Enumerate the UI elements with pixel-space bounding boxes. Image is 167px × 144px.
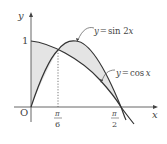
diagram-canvas: y x O 1 π 6 π 2 y=sin 2x y=cosx <box>0 0 167 144</box>
x-axis-label: x <box>152 109 158 120</box>
x-tick-pi-2-num: π <box>111 110 117 118</box>
shaded-region-left <box>31 41 58 107</box>
y-axis-label: y <box>17 10 24 21</box>
x-tick-pi-6-den: 6 <box>55 120 60 129</box>
x-tick-pi-6-num: π <box>54 110 60 118</box>
label-sin-2x: y=sin 2x <box>93 26 134 36</box>
shaded-region-right <box>58 41 121 107</box>
label-cos-x: y=cosx <box>115 68 151 78</box>
x-tick-pi-2-den: 2 <box>112 120 117 129</box>
y-tick-1-label: 1 <box>22 35 28 46</box>
leader-sin-2x <box>78 28 94 41</box>
y-axis-arrow-icon <box>29 12 33 17</box>
origin-label: O <box>20 107 28 118</box>
